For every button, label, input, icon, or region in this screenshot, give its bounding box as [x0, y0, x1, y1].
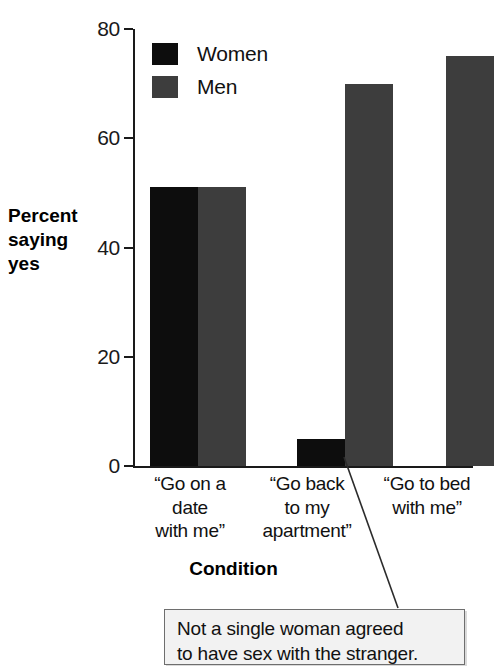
category-label-0-line-1: date — [135, 496, 245, 520]
category-label-2-line-0: “Go to bed — [369, 472, 485, 496]
y-tick-mark-80 — [124, 28, 133, 30]
bar-women-1 — [297, 439, 345, 466]
y-axis-line — [133, 29, 135, 466]
legend-swatch-men — [152, 76, 178, 98]
callout-line-2: to have sex with the stranger. — [177, 642, 464, 666]
y-tick-label-20: 20 — [97, 345, 120, 369]
y-tick-mark-0 — [124, 465, 133, 467]
legend-swatch-women — [152, 43, 178, 65]
legend-item-women: Women — [152, 42, 268, 66]
x-axis-category-labels: “Go on adatewith me” “Go backto myapartm… — [133, 472, 485, 554]
category-label-1-line-2: apartment” — [246, 519, 368, 543]
y-tick-label-0: 0 — [109, 454, 120, 478]
category-label-2-line-1: with me” — [369, 496, 485, 520]
bar-men-1 — [345, 84, 393, 466]
y-tick-mark-20 — [124, 356, 133, 358]
chart-legend: WomenMen — [152, 42, 268, 108]
y-axis-title-line-1: Percent — [8, 204, 128, 228]
bar-men-2 — [446, 56, 494, 466]
y-tick-mark-40 — [124, 247, 133, 249]
category-label-2: “Go to bedwith me” — [369, 472, 485, 519]
x-axis-line — [133, 466, 473, 468]
category-label-0-line-2: with me” — [135, 519, 245, 543]
legend-item-men: Men — [152, 75, 268, 99]
y-tick-label-80: 80 — [97, 17, 120, 41]
legend-label-women: Women — [197, 42, 268, 66]
callout-line-1: Not a single woman agreed — [177, 617, 464, 642]
x-axis-title: Condition — [0, 558, 485, 580]
y-tick-label-40: 40 — [97, 236, 120, 260]
category-label-1-line-0: “Go back — [246, 472, 368, 496]
bar-men-0 — [198, 187, 246, 466]
category-label-1-line-1: to my — [246, 496, 368, 520]
category-label-0-line-0: “Go on a — [135, 472, 245, 496]
y-tick-label-60: 60 — [97, 126, 120, 150]
legend-label-men: Men — [197, 75, 237, 99]
y-tick-mark-60 — [124, 137, 133, 139]
category-label-0: “Go on adatewith me” — [135, 472, 245, 543]
bar-women-0 — [150, 187, 198, 466]
callout-annotation-box: Not a single woman agreed to have sex wi… — [164, 609, 465, 665]
category-label-1: “Go backto myapartment” — [246, 472, 368, 543]
